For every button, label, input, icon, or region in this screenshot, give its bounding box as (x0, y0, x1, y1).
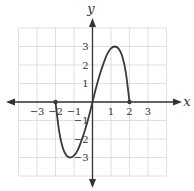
function-graph: x y −3−2−1123−3−2−1123 (0, 0, 194, 191)
y-tick-label: 3 (82, 41, 88, 52)
endpoint-dot (53, 100, 57, 104)
y-tick-label: 2 (82, 60, 88, 71)
x-tick-label: 3 (145, 106, 151, 117)
endpoint-dot (127, 100, 131, 104)
y-axis-down-arrow-icon (89, 179, 96, 188)
y-tick-label: 1 (82, 78, 88, 89)
x-tick-label: 1 (108, 106, 114, 117)
x-tick-label: −3 (30, 106, 45, 117)
x-axis-label: x (183, 94, 191, 109)
x-axis-left-arrow-icon (6, 99, 15, 106)
y-axis-up-arrow-icon (89, 18, 96, 27)
y-axis-label: y (86, 1, 95, 16)
x-tick-label: 2 (126, 106, 132, 117)
axes (6, 18, 182, 188)
x-axis-right-arrow-icon (173, 99, 182, 106)
